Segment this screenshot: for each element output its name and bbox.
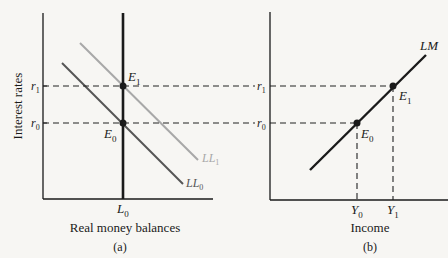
y1-label: Y1 xyxy=(387,202,399,220)
panel-b-r1-label: r1 xyxy=(257,79,266,95)
panel-b-x-axis-label: Income xyxy=(330,220,410,236)
ll1-label: LL1 xyxy=(202,151,219,167)
panel-b-caption: (b) xyxy=(355,240,385,255)
panel-b-e0-label: E0 xyxy=(361,126,373,144)
l0-label: L0 xyxy=(117,201,129,219)
panel-b-r0-label: r0 xyxy=(257,116,266,132)
panel-a-e1-label: E1 xyxy=(128,69,140,87)
panel-a-x-axis-label: Real money balances xyxy=(55,220,195,236)
panel-a-y-axis-label: Interest rates xyxy=(10,56,26,156)
panel-a-e0-label: E0 xyxy=(104,126,116,144)
y0-label: Y0 xyxy=(351,202,363,220)
ll0-label: LL0 xyxy=(186,176,203,192)
panel-b-e1-label: E1 xyxy=(399,88,411,106)
lm-label: LM xyxy=(420,38,438,54)
panel-a-r0-label: r0 xyxy=(31,116,40,132)
panel-a-r1-label: r1 xyxy=(31,79,40,95)
panel-a-caption: (a) xyxy=(105,240,135,255)
